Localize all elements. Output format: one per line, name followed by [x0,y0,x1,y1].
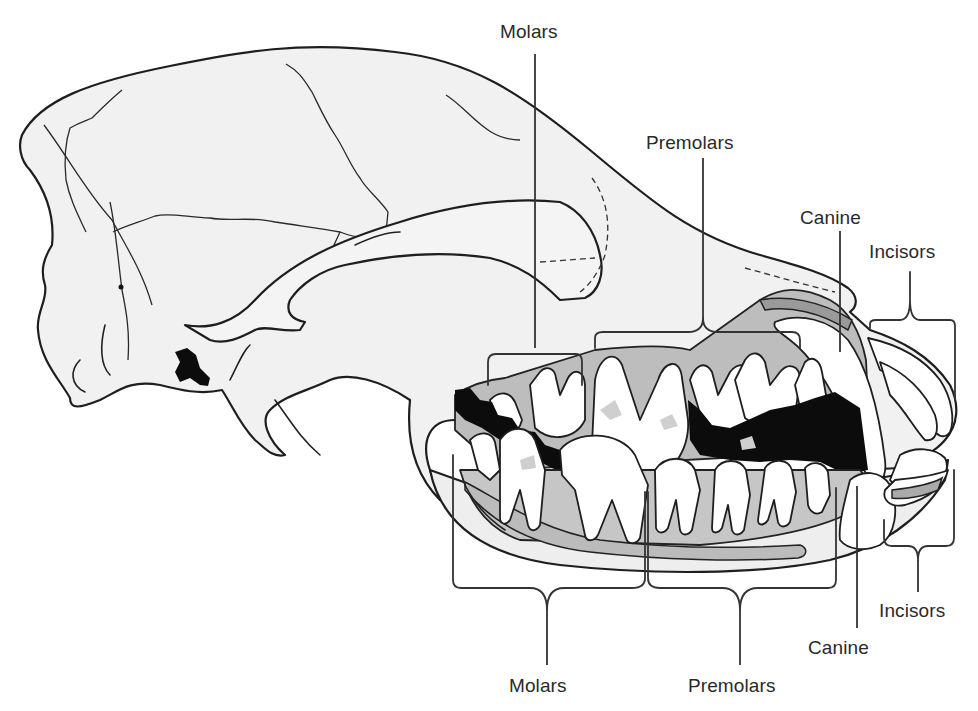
label-lower-incisors: Incisors [879,601,945,620]
dog-skull-dentition-diagram: Molars Premolars Canine Incisors Incisor… [0,0,978,711]
label-upper-incisors: Incisors [869,242,935,261]
label-lower-premolars: Premolars [688,676,775,695]
label-lower-molars: Molars [509,676,567,695]
label-upper-canine: Canine [800,208,861,227]
skull-illustration [0,0,978,711]
label-upper-molars: Molars [500,22,558,41]
label-lower-canine: Canine [808,638,869,657]
label-upper-premolars: Premolars [646,133,733,152]
